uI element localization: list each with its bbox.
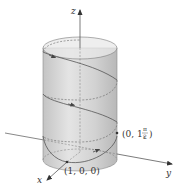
y-axis xyxy=(117,154,172,164)
svg-text:): ) xyxy=(149,129,153,139)
point-label-1-0-0: (1, 0, 0) xyxy=(64,166,100,176)
svg-text:(0, 1,: (0, 1, xyxy=(122,129,146,139)
point-1-0-0 xyxy=(66,161,69,164)
y-axis-label: y xyxy=(165,168,172,178)
svg-text:π: π xyxy=(143,125,147,132)
point-label-0-1-pi-half: (0, 1, π 2 ) xyxy=(122,125,153,140)
x-axis-label: x xyxy=(37,175,42,185)
helix-on-cylinder-diagram: z y x (1, 0, 0) (0, 1, π 2 ) xyxy=(0,0,176,193)
z-axis-label: z xyxy=(70,6,76,16)
y-axis-back xyxy=(5,133,44,140)
point-0-1-pi-half xyxy=(116,132,119,135)
svg-text:2: 2 xyxy=(143,133,147,140)
